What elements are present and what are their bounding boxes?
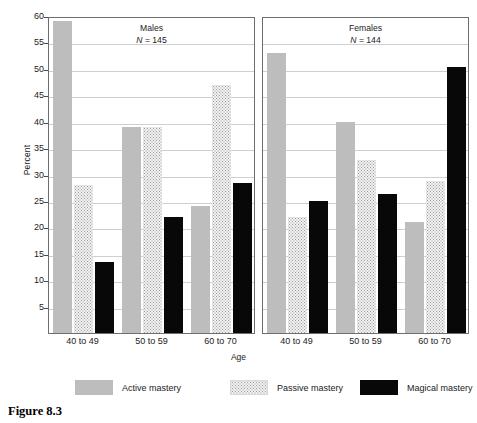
legend-item-passive: Passive mastery — [230, 380, 343, 395]
bar-group-60-to-70 — [191, 18, 252, 333]
x-axis-label: Age — [0, 352, 477, 362]
y-tick-mark — [44, 176, 48, 177]
legend-label: Active mastery — [122, 383, 181, 393]
y-tick-label-50: 50 — [18, 65, 44, 74]
y-tick-label-55: 55 — [18, 38, 44, 47]
y-tick-mark — [44, 308, 48, 309]
bar-females-60to70-passive — [426, 181, 445, 333]
bar-males-40to49-magical — [95, 262, 114, 333]
y-tick-label-60: 60 — [18, 12, 44, 21]
y-tick-label-45: 45 — [18, 91, 44, 100]
x-tick-label: 40 to 49 — [262, 336, 332, 346]
y-tick-label-10: 10 — [18, 276, 44, 285]
legend-item-active: Active mastery — [75, 380, 181, 395]
y-tick-label-30: 30 — [18, 171, 44, 180]
bar-females-60to70-active — [405, 222, 424, 333]
figure-8-3: Percent Males N = 145 Females N = 144 Ag… — [0, 0, 477, 423]
legend-swatch-icon — [75, 380, 113, 395]
x-tick-label: 50 to 59 — [117, 336, 187, 346]
y-tick-label-35: 35 — [18, 144, 44, 153]
bar-males-50to59-active — [122, 127, 141, 333]
bar-group-50-to-59 — [122, 18, 183, 333]
legend-label: Magical mastery — [407, 383, 473, 393]
figure-caption: Figure 8.3 — [8, 404, 62, 419]
bar-males-60to70-magical — [233, 183, 252, 333]
y-axis-label: Percent — [22, 130, 32, 190]
y-tick-mark — [44, 255, 48, 256]
legend-label: Passive mastery — [277, 383, 343, 393]
y-tick-mark — [44, 43, 48, 44]
bar-group-40-to-49 — [53, 18, 114, 333]
y-tick-mark — [44, 202, 48, 203]
bar-females-50to59-passive — [357, 160, 376, 333]
bar-group-50-to-59 — [336, 18, 397, 333]
y-tick-label-25: 25 — [18, 197, 44, 206]
legend-item-magical: Magical mastery — [360, 380, 473, 395]
bar-males-60to70-passive — [212, 85, 231, 333]
y-tick-label-20: 20 — [18, 223, 44, 232]
legend: Active masteryPassive masteryMagical mas… — [0, 380, 477, 402]
bar-group-60-to-70 — [405, 18, 466, 333]
x-tick-label: 40 to 49 — [48, 336, 118, 346]
bar-males-60to70-active — [191, 206, 210, 333]
y-tick-mark — [44, 149, 48, 150]
y-tick-label-5: 5 — [18, 303, 44, 312]
x-tick-label: 60 to 70 — [400, 336, 470, 346]
y-tick-mark — [44, 17, 48, 18]
y-tick-mark — [44, 281, 48, 282]
panel-females: Females N = 144 — [262, 17, 469, 334]
legend-swatch-icon — [230, 380, 268, 395]
bar-females-40to49-magical — [309, 201, 328, 333]
y-tick-mark — [44, 96, 48, 97]
bar-females-40to49-active — [267, 53, 286, 333]
bar-males-40to49-active — [53, 21, 72, 333]
y-tick-label-15: 15 — [18, 250, 44, 259]
legend-swatch-icon — [360, 380, 398, 395]
x-tick-label: 50 to 59 — [331, 336, 401, 346]
bar-females-50to59-active — [336, 122, 355, 333]
bar-females-40to49-passive — [288, 217, 307, 333]
bar-females-60to70-magical — [447, 67, 466, 333]
panel-males: Males N = 145 — [48, 17, 255, 334]
bar-males-50to59-magical — [164, 217, 183, 333]
x-tick-label: 60 to 70 — [186, 336, 256, 346]
bar-group-40-to-49 — [267, 18, 328, 333]
y-tick-mark — [44, 70, 48, 71]
bar-females-50to59-magical — [378, 194, 397, 333]
y-tick-mark — [44, 228, 48, 229]
y-tick-mark — [44, 123, 48, 124]
y-tick-label-40: 40 — [18, 118, 44, 127]
bar-males-50to59-passive — [143, 127, 162, 333]
bar-males-40to49-passive — [74, 185, 93, 333]
